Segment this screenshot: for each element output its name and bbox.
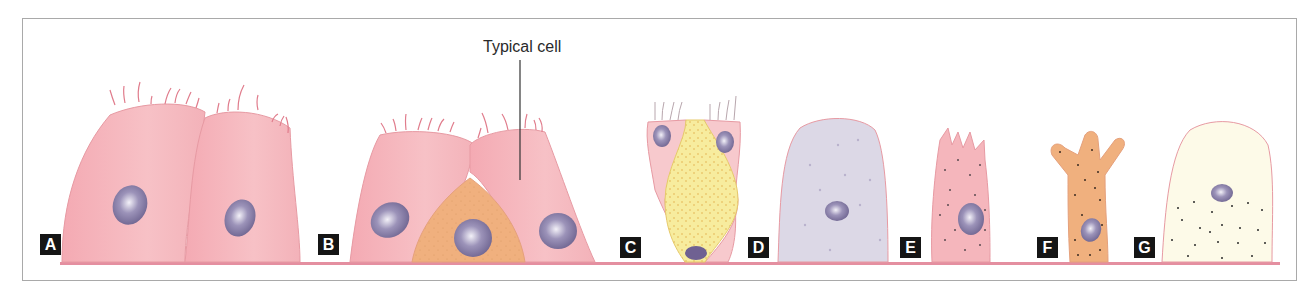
- panel-label-f: F: [1037, 237, 1058, 258]
- panel-f-cells: [1051, 131, 1124, 262]
- typical-cell-label: Typical cell: [483, 38, 561, 56]
- panel-label-g: G: [1134, 237, 1155, 258]
- epithelium-diagram: [0, 0, 1314, 288]
- panel-label-a: A: [40, 234, 61, 255]
- panel-c-cells: [647, 96, 740, 262]
- panel-label-d: D: [748, 237, 769, 258]
- panel-label-b: B: [318, 234, 339, 255]
- panel-d-cells: [778, 118, 888, 262]
- panel-a-cells: [62, 82, 300, 262]
- panel-g-cells: [1162, 122, 1273, 262]
- panel-label-e: E: [900, 237, 921, 258]
- panel-label-c: C: [620, 237, 641, 258]
- panel-b-cells: [350, 60, 595, 262]
- panel-e-cells: [932, 128, 990, 262]
